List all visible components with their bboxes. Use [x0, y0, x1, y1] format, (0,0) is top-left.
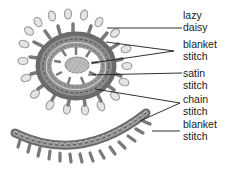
label-text: stitch	[183, 130, 217, 142]
leader-chain-a	[95, 89, 180, 103]
label-text: chain	[183, 93, 208, 105]
curved-band	[15, 111, 150, 162]
label-text: stitch	[183, 79, 208, 91]
label-satin-stitch: satin stitch	[183, 67, 208, 91]
label-text: stitch	[183, 50, 217, 62]
label-text: daisy	[183, 21, 208, 33]
label-text: lazy	[183, 9, 208, 21]
label-text: blanket	[183, 118, 217, 130]
stitch-diagram: lazy daisy blanket stitch satin stitch c…	[0, 0, 228, 175]
satin-stitch-center	[65, 57, 89, 73]
label-text: blanket	[183, 38, 217, 50]
label-chain-stitch: chain stitch	[183, 93, 208, 117]
label-text: stitch	[183, 105, 208, 117]
label-lazy-daisy: lazy daisy	[183, 9, 208, 33]
label-blanket-stitch-upper: blanket stitch	[183, 38, 217, 62]
label-blanket-stitch-lower: blanket stitch	[183, 118, 217, 142]
label-text: satin	[183, 67, 208, 79]
